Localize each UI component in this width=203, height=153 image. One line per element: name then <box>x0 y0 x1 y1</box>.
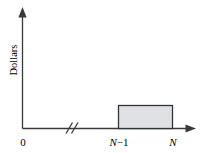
chart-canvas <box>0 0 203 153</box>
x-axis-arrow-icon <box>186 124 197 132</box>
x-tick-n-minus-1-symbol: N <box>109 136 116 148</box>
y-axis-title-text: Dollars <box>8 45 19 76</box>
x-tick-n: N <box>163 132 183 150</box>
bar-final-period <box>119 106 173 129</box>
y-axis-title: Dollars <box>4 30 20 90</box>
x-tick-n-minus-1-number: 1 <box>123 136 129 148</box>
y-axis-arrow-icon <box>18 7 26 18</box>
x-tick-n-minus-1: N−1 <box>99 132 139 150</box>
x-tick-n-text: N <box>169 136 176 148</box>
x-tick-origin: 0 <box>14 132 32 150</box>
x-tick-origin-text: 0 <box>20 136 26 148</box>
cash-flow-figure: Dollars 0 N−1 N <box>0 0 203 153</box>
